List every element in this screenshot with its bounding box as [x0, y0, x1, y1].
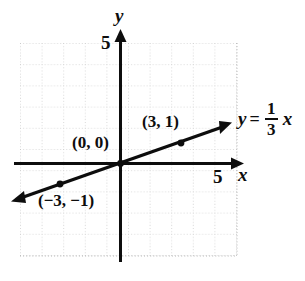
coordinate-plane-svg — [0, 0, 305, 281]
x-axis-tick-5: 5 — [213, 167, 223, 186]
fraction-denominator: 3 — [267, 120, 276, 138]
equation-variable: x — [283, 108, 293, 130]
point-label-neg3-neg1: (−3, −1) — [38, 192, 94, 209]
point-label-3-1: (3, 1) — [142, 113, 179, 130]
equation-relation: = — [249, 109, 259, 130]
point-marker-origin — [117, 160, 124, 167]
fraction-numerator: 1 — [267, 100, 276, 118]
x-axis-label: x — [238, 165, 248, 184]
point-label-origin: (0, 0) — [72, 134, 109, 151]
equation-label: y = 1 3 x — [238, 100, 292, 138]
grid-lines — [20, 43, 237, 256]
y-axis-tick-5: 5 — [101, 33, 111, 52]
equation-fraction: 1 3 — [265, 100, 278, 138]
point-marker-3-1 — [178, 140, 185, 147]
equation-lhs: y — [238, 108, 246, 130]
y-axis-label: y — [115, 6, 123, 25]
point-marker-neg3-neg1 — [57, 181, 64, 188]
graph-figure: y 5 x 5 (0, 0) (3, 1) (−3, −1) y = 1 3 x — [0, 0, 305, 281]
